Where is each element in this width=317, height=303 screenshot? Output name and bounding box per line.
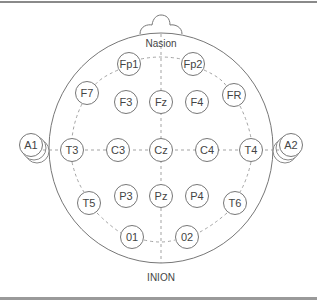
- electrode-label: Fp1: [120, 58, 139, 70]
- electrode-p3: P3: [115, 185, 138, 208]
- electrode-label: Pz: [155, 190, 168, 202]
- electrode-fp2: Fp2: [182, 53, 205, 76]
- electrode-label: P4: [190, 190, 203, 202]
- electrode-label: Fz: [155, 96, 167, 108]
- electrode-label: C4: [200, 144, 214, 156]
- electrode-label: 01: [126, 231, 138, 243]
- electrode-c3: C3: [107, 139, 130, 162]
- electrode-fr: FR: [223, 84, 246, 107]
- electrode-label: F7: [81, 87, 94, 99]
- electrode-o1: 01: [121, 226, 144, 249]
- electrode-a2: A2: [280, 134, 303, 157]
- electrode-fp1: Fp1: [118, 53, 141, 76]
- diagram-frame: Nasion INION Fp1Fp2F7F3FzF4FRA1T3C3CzC4T…: [0, 0, 317, 303]
- eeg-head-diagram: Nasion INION Fp1Fp2F7F3FzF4FRA1T3C3CzC4T…: [0, 0, 317, 303]
- electrode-o2: 02: [176, 226, 199, 249]
- electrode-label: 02: [181, 231, 193, 243]
- electrode-t6: T6: [224, 192, 247, 215]
- electrode-group: Fp1Fp2F7F3FzF4FRA1T3C3CzC4T4A2T5P3PzP4T6…: [20, 53, 303, 249]
- electrode-label: P3: [119, 190, 132, 202]
- electrode-cz: Cz: [150, 139, 173, 162]
- electrode-label: F3: [120, 96, 133, 108]
- electrode-label: Cz: [154, 144, 167, 156]
- electrode-t4: T4: [240, 139, 263, 162]
- inion-label: INION: [147, 272, 175, 283]
- electrode-t5: T5: [78, 192, 101, 215]
- electrode-label: FR: [227, 89, 242, 101]
- electrode-a1: A1: [20, 134, 43, 157]
- electrode-fz: Fz: [150, 91, 173, 114]
- nose-outline: [140, 15, 182, 34]
- electrode-label: A2: [284, 139, 297, 151]
- electrode-label: T3: [66, 144, 79, 156]
- electrode-f3: F3: [115, 91, 138, 114]
- electrode-pz: Pz: [150, 185, 173, 208]
- electrode-p4: P4: [186, 185, 209, 208]
- electrode-label: C3: [111, 144, 125, 156]
- electrode-t3: T3: [61, 139, 84, 162]
- electrode-label: F4: [191, 96, 204, 108]
- electrode-c4: C4: [196, 139, 219, 162]
- electrode-f7: F7: [76, 82, 99, 105]
- electrode-label: T6: [229, 197, 242, 209]
- electrode-label: T5: [83, 197, 96, 209]
- electrode-f4: F4: [186, 91, 209, 114]
- electrode-label: T4: [245, 144, 258, 156]
- electrode-label: A1: [24, 139, 37, 151]
- nasion-label: Nasion: [145, 38, 176, 49]
- electrode-label: Fp2: [184, 58, 203, 70]
